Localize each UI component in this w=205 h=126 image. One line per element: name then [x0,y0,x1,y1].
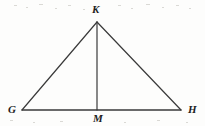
vertex-label-h: H [188,104,197,115]
vertex-label-m: M [93,113,103,124]
vertex-label-k: K [92,4,99,15]
triangle-side-kh [97,22,181,110]
triangle-figure [0,0,205,126]
triangle-side-gk [22,22,97,110]
vertex-label-g: G [8,104,16,115]
geometry-diagram-canvas: K G H M [0,0,205,126]
